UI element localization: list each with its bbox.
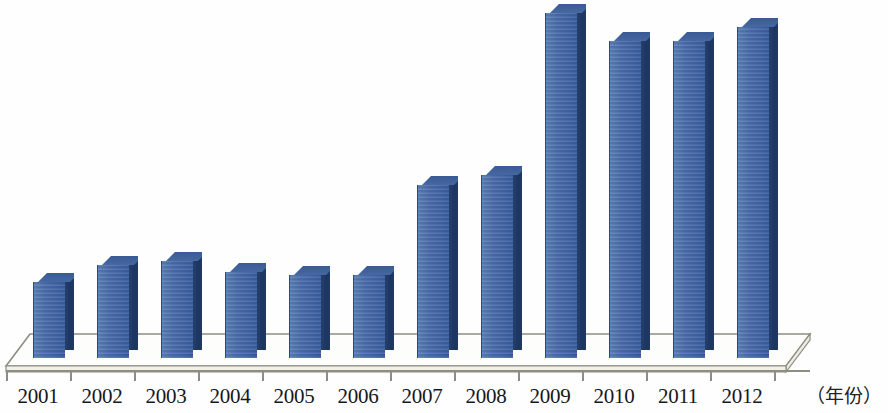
bar-side-face [65, 274, 74, 350]
bar-front-face [97, 265, 129, 358]
x-label-2008: 2008 [454, 383, 518, 409]
bar-front-face [225, 272, 257, 358]
x-axis-tick [518, 370, 520, 381]
bar-top-face [33, 273, 74, 282]
bar-top-face [737, 18, 778, 27]
bar-front-face [737, 27, 769, 358]
x-axis-tick [454, 370, 456, 381]
x-axis-title: （年份） [806, 383, 882, 409]
bar-top-face [289, 266, 330, 275]
bar-side-face [257, 264, 266, 350]
bar-side-face [769, 19, 778, 350]
bar-top-face [609, 32, 650, 41]
bar-front-face [33, 282, 65, 358]
bar-top-face [481, 166, 522, 175]
bar-chart: 2001 2002 2003 2004 2005 2006 2007 2008 … [0, 0, 888, 413]
x-label-2001: 2001 [6, 383, 70, 409]
bar-side-face [641, 33, 650, 350]
bar-side-face [129, 257, 138, 350]
bar-top-face [353, 266, 394, 275]
x-label-2007: 2007 [390, 383, 454, 409]
x-axis-tick [774, 370, 776, 381]
bar-top-face [225, 263, 266, 272]
bar-front-face [545, 13, 577, 358]
bar-side-face [705, 33, 714, 350]
x-label-2012: 2012 [710, 383, 774, 409]
bar-side-face [577, 5, 586, 350]
x-label-2004: 2004 [198, 383, 262, 409]
x-axis-tick [646, 370, 648, 381]
x-axis-tick [582, 370, 584, 381]
x-axis-tick [390, 370, 392, 381]
bar-side-face [449, 177, 458, 350]
bar-top-face [417, 176, 458, 185]
bar-front-face [673, 41, 705, 358]
bar-top-face [97, 256, 138, 265]
bar-top-face [673, 32, 714, 41]
x-label-2009: 2009 [518, 383, 582, 409]
x-label-2002: 2002 [70, 383, 134, 409]
x-label-2005: 2005 [262, 383, 326, 409]
bar-front-face [417, 185, 449, 358]
x-axis-tick [134, 370, 136, 381]
bar-side-face [193, 253, 202, 350]
bar-top-face [161, 252, 202, 261]
x-axis-tick [70, 370, 72, 381]
x-axis-tick [198, 370, 200, 381]
bar-side-face [513, 167, 522, 350]
x-label-2003: 2003 [134, 383, 198, 409]
bar-front-face [161, 261, 193, 358]
x-axis-labels: 2001 2002 2003 2004 2005 2006 2007 2008 … [0, 383, 888, 413]
bar-front-face [353, 275, 385, 358]
bar-front-face [609, 41, 641, 358]
bar-side-face [385, 267, 394, 350]
bars-layer [0, 0, 888, 372]
bar-front-face [481, 175, 513, 358]
x-axis-tick [710, 370, 712, 381]
x-label-2006: 2006 [326, 383, 390, 409]
x-label-2011: 2011 [646, 383, 710, 409]
x-axis-tick [262, 370, 264, 381]
bar-side-face [321, 267, 330, 350]
x-axis-tick [326, 370, 328, 381]
x-axis-line [6, 370, 810, 372]
x-axis-tick [6, 370, 8, 381]
bar-top-face [545, 4, 586, 13]
bar-front-face [289, 275, 321, 358]
x-label-2010: 2010 [582, 383, 646, 409]
